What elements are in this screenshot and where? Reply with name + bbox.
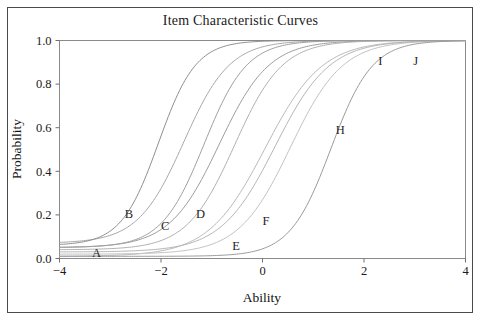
curve-label-e: E — [232, 239, 240, 253]
y-tick-label: 1.0 — [36, 34, 52, 48]
x-axis-label: Ability — [243, 290, 282, 305]
curve-label-set: ABCDEFHIJ — [92, 54, 418, 260]
x-tick-label: 4 — [462, 264, 469, 278]
icc-plot: 0.00.20.40.60.81.0 −4−2024 ABCDEFHIJ Abi… — [0, 0, 481, 321]
curve-label-d: D — [196, 207, 205, 221]
y-tick-label: 0.8 — [36, 77, 52, 91]
y-axis-ticks: 0.00.20.40.60.81.0 — [36, 34, 60, 266]
curve-label-c: C — [161, 219, 169, 233]
y-tick-label: 0.6 — [36, 121, 52, 135]
y-tick-label: 0.2 — [36, 208, 52, 222]
y-tick-label: 0.0 — [36, 252, 52, 266]
curve-label-j: J — [413, 54, 418, 68]
x-tick-label: 0 — [259, 264, 265, 278]
curve-label-f: F — [263, 214, 270, 228]
curve-label-i: I — [378, 54, 382, 68]
x-tick-label: −2 — [154, 264, 167, 278]
x-tick-label: −4 — [53, 264, 67, 278]
y-tick-label: 0.4 — [36, 165, 52, 179]
icc-curve-b — [60, 41, 466, 243]
x-axis-ticks: −4−2024 — [53, 259, 470, 279]
x-tick-label: 2 — [361, 264, 367, 278]
figure-canvas: Item Characteristic Curves 0.00.20.40.60… — [0, 0, 481, 321]
curve-label-a: A — [92, 246, 101, 260]
y-axis-label: Probability — [9, 119, 24, 179]
curve-label-b: B — [125, 207, 133, 221]
curve-label-h: H — [336, 123, 345, 137]
